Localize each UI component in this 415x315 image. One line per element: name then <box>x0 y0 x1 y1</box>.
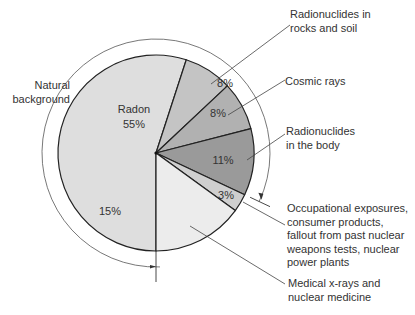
callout-leader-line <box>243 202 285 225</box>
slice-percent-label: 8% <box>210 107 226 119</box>
callout-label: fallout from past nuclear <box>287 229 405 241</box>
callout-label: nuclear medicine <box>288 291 371 303</box>
callout-label: Occupational exposures, <box>287 202 408 214</box>
slice-percent-label: 8% <box>217 77 233 89</box>
arrowhead-icon <box>258 193 263 200</box>
callout-label: power plants <box>287 256 350 268</box>
callout-label: Radionuclides <box>286 125 356 137</box>
callout-label: Radionuclides in <box>290 8 371 20</box>
callout-leader-line <box>190 226 285 284</box>
callout-label: rocks and soil <box>290 22 357 34</box>
slice-percent-label: 55% <box>123 118 145 130</box>
natural-background-label: Natural <box>35 79 70 91</box>
pie-center-point <box>154 151 157 154</box>
callout-label: Medical x-rays and <box>288 277 380 289</box>
callout-leader-line <box>211 25 290 84</box>
callout-label: in the body <box>286 139 340 151</box>
slice-percent-label: 11% <box>212 154 233 166</box>
natural-background-label: background <box>13 93 71 105</box>
arrowhead-icon <box>150 265 156 269</box>
callout-label: Cosmic rays <box>285 75 346 87</box>
slice-percent-label: 15% <box>99 205 121 217</box>
callout-label: consumer products, <box>287 216 384 228</box>
slice-name-label: Radon <box>118 103 150 115</box>
callout-label: weapons tests, nuclear <box>286 243 400 255</box>
pie-chart: Radon55%8%Radionuclides inrocks and soil… <box>0 0 415 315</box>
